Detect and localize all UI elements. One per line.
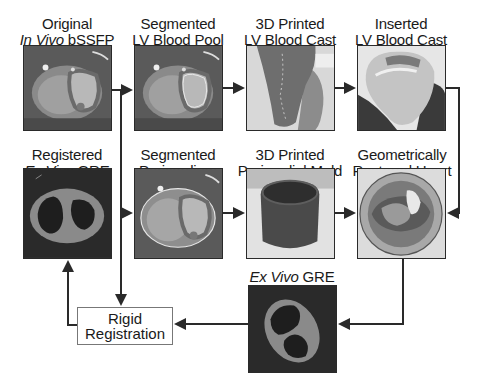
- label-italic: Ex Vivo: [249, 268, 298, 285]
- mold-photo-graphic: [247, 169, 334, 258]
- arrow-rigid-registration-to-registered: [68, 262, 77, 325]
- label-line1: Inserted: [351, 16, 451, 32]
- label-line1: 3D Printed: [240, 16, 340, 32]
- label-line1: Segmented: [128, 16, 228, 32]
- image-segmented-lv-blood-pool: [134, 45, 223, 131]
- label-line1: Segmented: [128, 147, 228, 163]
- pericardium-segmentation-graphic: [135, 169, 222, 258]
- label-line1: Registered: [18, 147, 116, 163]
- label-line1: Geometrically: [349, 147, 455, 163]
- image-geometrically-restored-heart: [357, 168, 446, 259]
- mri-bssfp-graphic: [24, 46, 111, 130]
- label-line1: 3D Printed: [236, 147, 344, 163]
- process-label-line2: Registration: [78, 326, 172, 341]
- exvivo-mri-graphic: [24, 169, 111, 258]
- label-line2: Ex Vivo GRE: [240, 269, 344, 285]
- label-printed-lv-cast: 3D Printed LV Blood Cast: [240, 16, 340, 48]
- image-3d-printed-pericardial-mold: [246, 168, 335, 259]
- process-label-line1: Rigid: [78, 311, 172, 326]
- image-3d-printed-lv-blood-cast: [246, 45, 335, 131]
- image-registered-exvivo-gre: [23, 168, 112, 259]
- image-segmented-pericardium: [134, 168, 223, 259]
- image-inserted-lv-blood-cast: [357, 45, 446, 131]
- mri-segmentation-graphic: [135, 46, 222, 130]
- restored-heart-graphic: [358, 169, 445, 258]
- exvivo-gre-graphic: [249, 286, 336, 372]
- label-inserted-lv-cast: Inserted LV Blood Cast: [351, 16, 451, 48]
- heart-photo-graphic: [358, 46, 445, 130]
- label-exvivo-gre: Ex Vivo GRE: [240, 269, 344, 285]
- image-original-invivo-bssfp: [23, 45, 112, 131]
- printed-cast-graphic: [247, 46, 334, 130]
- label-segmented-lv: Segmented LV Blood Pool: [128, 16, 228, 48]
- label-line1: Original: [18, 16, 116, 32]
- label-original-invivo: Original In Vivo bSSFP: [18, 16, 116, 48]
- rigid-registration-box: Rigid Registration: [77, 307, 173, 345]
- label-rest: GRE: [299, 268, 335, 285]
- arrow-restored-heart-to-exvivo-gre: [340, 259, 403, 324]
- image-exvivo-gre: [248, 285, 337, 373]
